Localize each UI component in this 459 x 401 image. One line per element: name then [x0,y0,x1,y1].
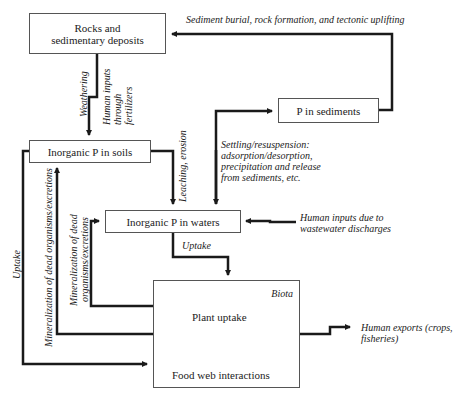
arrow-leaching [150,151,173,204]
label-ww-line2: wastewater discharges [300,223,391,234]
label-minw-line1: Mineralization of dead [68,214,79,306]
node-p-sediments: P in sediments [278,98,379,123]
label-human-inputs-wastewater: Human inputs due to wastewater discharge… [300,212,391,234]
label-human-inputs-fertilizers: Human inputs through fertilizers [101,69,134,125]
arrow-human-exports [299,327,350,334]
node-p-sediments-label: P in sediments [297,105,361,117]
label-mineralization-waters: Mineralization of dead organisms/excreti… [68,214,90,306]
arrow-weathering [89,53,97,135]
label-ww-line1: Human inputs due to [300,212,391,223]
label-exports-line2: fisheries) [361,333,453,344]
arrow-mineralization-waters [91,221,153,306]
label-uptake-soils: Uptake [11,250,22,279]
node-biota: Biota Plant uptake Food web interactions [153,280,300,388]
label-settling-line1: Settling/resuspension: [221,139,321,150]
label-human-exports: Human exports (crops, fisheries) [361,322,453,344]
food-web-label: Food web interactions [172,369,270,381]
label-minw-line2: organisms/excretions [79,214,90,306]
label-settling-line4: from sediments, etc. [221,172,321,183]
arrow-wastewater-input [246,221,296,222]
node-rocks-line1: Rocks and [74,22,120,34]
arrow-uptake-waters [173,232,228,275]
label-mineralization-soils: Mineralization of dead organisms/excreti… [43,168,54,347]
label-uptake-waters: Uptake [182,240,211,251]
label-settling: Settling/resuspension: adsorption/desorp… [221,139,321,183]
label-sediment-burial: Sediment burial, rock formation, and tec… [186,14,405,25]
biota-title: Biota [271,288,293,299]
label-fert-line2: through [112,69,123,125]
label-fert-line1: Human inputs [101,69,112,125]
node-rocks: Rocks and sedimentary deposits [29,13,166,54]
node-p-waters-label: Inorganic P in waters [126,216,219,228]
label-leaching: Leaching, erosion [177,130,188,202]
node-p-waters: Inorganic P in waters [105,210,241,233]
label-fert-line3: fertilizers [123,69,134,125]
node-p-soils: Inorganic P in soils [29,140,151,163]
label-weathering: Weathering [78,71,89,117]
label-settling-line3: precipitation and release [221,161,321,172]
node-rocks-line2: sedimentary deposits [51,34,144,46]
plant-uptake-label: Plant uptake [192,311,247,323]
label-settling-line2: adsorption/desorption, [221,150,321,161]
node-p-soils-label: Inorganic P in soils [48,146,133,158]
label-exports-line1: Human exports (crops, [361,322,453,333]
